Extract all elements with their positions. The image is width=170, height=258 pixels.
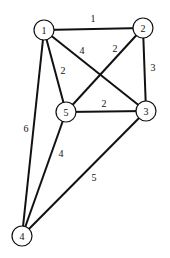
node-3: 3 bbox=[136, 101, 156, 121]
edge-weight-1-5: 2 bbox=[61, 65, 66, 76]
node-label: 2 bbox=[141, 23, 146, 34]
edge-weight-3-4: 5 bbox=[92, 172, 97, 183]
node-1: 1 bbox=[34, 20, 54, 40]
edge-weight-1-2: 1 bbox=[91, 13, 96, 24]
edge-weight-2-5: 2 bbox=[113, 43, 118, 54]
node-5: 5 bbox=[56, 102, 76, 122]
node-4: 4 bbox=[12, 226, 32, 246]
node-label: 5 bbox=[64, 107, 69, 118]
edge-weight-2-3: 3 bbox=[151, 62, 156, 73]
edge-weight-5-3: 2 bbox=[102, 98, 107, 109]
edge-weight-5-4: 4 bbox=[59, 148, 64, 159]
node-2: 2 bbox=[133, 18, 153, 38]
edges-layer bbox=[22, 28, 146, 236]
edge-1-2 bbox=[44, 28, 143, 30]
edge-3-4 bbox=[22, 111, 146, 236]
edge-5-3 bbox=[66, 111, 146, 112]
edge-2-3 bbox=[143, 28, 146, 111]
node-label: 3 bbox=[144, 106, 149, 117]
edge-weight-1-3: 4 bbox=[80, 45, 85, 56]
edge-weight-1-4: 6 bbox=[24, 123, 29, 134]
node-label: 1 bbox=[42, 25, 47, 36]
node-label: 4 bbox=[20, 231, 25, 242]
graph-diagram: 142623245 12345 bbox=[0, 0, 170, 258]
